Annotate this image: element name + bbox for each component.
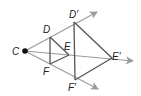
label-f: F (43, 66, 50, 77)
label-c: C (12, 46, 20, 57)
segment-e-prime-f-prime (75, 58, 112, 80)
segment-d-prime-e-prime (74, 22, 112, 58)
triangle-d-prime-e-prime-f-prime (74, 22, 112, 80)
dilation-diagram: C D E F D′ E′ F′ (0, 0, 141, 96)
label-e: E (64, 41, 71, 52)
ray-c-d-prime (25, 12, 97, 51)
label-d: D (43, 24, 50, 35)
center-point-c (22, 48, 28, 54)
segment-d-prime-f-prime (74, 22, 75, 80)
segment-ef (50, 55, 69, 64)
label-d-prime: D′ (69, 9, 79, 20)
label-e-prime: E′ (112, 51, 122, 62)
label-f-prime: F′ (68, 82, 77, 93)
